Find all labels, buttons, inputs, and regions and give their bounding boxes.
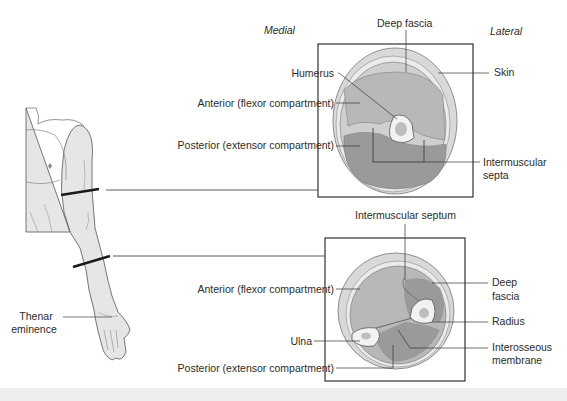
- forearm-posterior-label: Posterior (extensor compartment): [120, 362, 334, 375]
- forearm-deep-fascia-label-2: fascia: [492, 290, 519, 303]
- interosseous-membrane-label-1: Interosseous: [492, 341, 552, 354]
- upper-posterior-label: Posterior (extensor compartment): [130, 139, 334, 152]
- forearm-deep-fascia-label-1: Deep: [492, 276, 517, 289]
- skin-label: Skin: [494, 66, 514, 79]
- upper-anterior-label: Anterior (flexor compartment): [150, 97, 334, 110]
- forearm-anterior-label: Anterior (flexor compartment): [150, 283, 334, 296]
- medial-label: Medial: [264, 24, 295, 37]
- thenar-label-2: eminence: [6, 323, 62, 336]
- intermuscular-septa-label-1: Intermuscular: [483, 156, 547, 169]
- upper-arm-cross-section: [333, 48, 457, 194]
- upper-deep-fascia-label: Deep fascia: [377, 17, 432, 30]
- thenar-label-1: Thenar: [10, 310, 62, 323]
- lateral-label: Lateral: [490, 25, 522, 38]
- intermuscular-septum-label: Intermuscular septum: [355, 209, 456, 222]
- radius-label: Radius: [492, 315, 525, 328]
- intermuscular-septa-label-2: septa: [483, 169, 509, 182]
- forearm-cross-section: [338, 253, 454, 369]
- ulna-label: Ulna: [270, 335, 312, 348]
- humerus-label: Humerus: [258, 67, 334, 80]
- interosseous-membrane-label-2: membrane: [492, 354, 542, 367]
- bottom-strip: [0, 388, 567, 401]
